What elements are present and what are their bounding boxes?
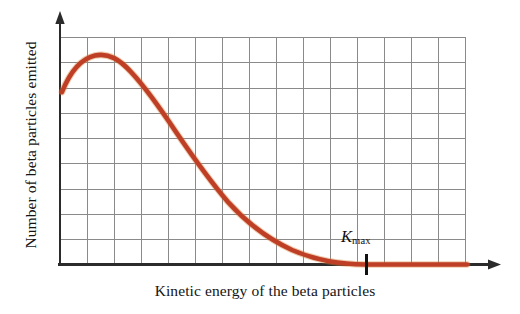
- chart-axes: [55, 11, 501, 269]
- kmax-subscript: max: [352, 235, 371, 246]
- kmax-symbol: K: [341, 227, 352, 246]
- x-axis-label: Kinetic energy of the beta particles: [60, 281, 470, 301]
- chart-canvas: [0, 0, 520, 314]
- spectrum-curve: [62, 55, 467, 265]
- y-axis-arrowhead: [55, 11, 64, 24]
- y-axis-label: Number of beta particles emitted: [19, 17, 43, 273]
- beta-decay-spectrum-figure: Number of beta particles emitted Kinetic…: [0, 0, 520, 314]
- kmax-annotation: Kmax: [341, 228, 371, 250]
- x-axis-arrowhead: [488, 260, 501, 270]
